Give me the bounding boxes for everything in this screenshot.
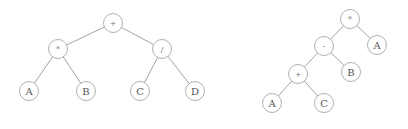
- operand-node-a: A: [20, 82, 39, 101]
- node-label: C: [136, 86, 144, 97]
- operator-node-plus: +: [289, 65, 308, 84]
- node-label: B: [82, 86, 89, 97]
- operand-node-b: B: [77, 82, 96, 101]
- node-label: *: [348, 15, 352, 24]
- operator-node-minus: -: [315, 37, 334, 56]
- left-expression-tree: +*/ABCD: [20, 14, 205, 101]
- node-label: -: [323, 42, 326, 51]
- node-label: +: [110, 19, 117, 28]
- operand-node-c: C: [131, 82, 150, 101]
- node-label: /: [161, 45, 164, 54]
- node-label: A: [24, 86, 33, 97]
- operand-node-b: B: [342, 63, 361, 82]
- expression-tree-diagram: +*/ABCD *-A+BAC: [0, 0, 408, 129]
- node-label: A: [372, 40, 381, 51]
- operand-node-a: A: [263, 94, 282, 113]
- node-label: +: [295, 70, 302, 79]
- operator-node-multiply: *: [341, 10, 360, 29]
- operator-node-plus: +: [104, 14, 123, 33]
- operator-node-multiply: *: [49, 40, 68, 59]
- operator-node-divide: /: [153, 40, 172, 59]
- node-label: C: [320, 98, 328, 109]
- operand-node-c: C: [315, 94, 334, 113]
- operand-node-d: D: [186, 82, 205, 101]
- right-expression-tree: *-A+BAC: [263, 10, 387, 113]
- operand-node-a: A: [368, 36, 387, 55]
- node-label: A: [267, 98, 276, 109]
- node-label: D: [191, 86, 199, 97]
- node-label: B: [347, 67, 354, 78]
- node-label: *: [56, 45, 60, 54]
